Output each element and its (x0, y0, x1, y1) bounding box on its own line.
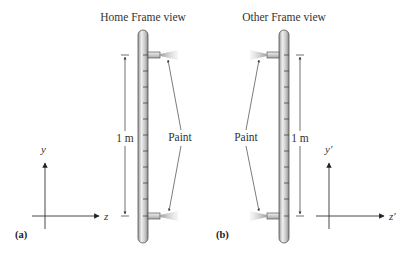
paint-nozzle-bottom-a (148, 211, 178, 221)
paint-label-a: Paint (168, 131, 192, 143)
panel-b: Other Frame view (216, 11, 396, 243)
panel-label-b: (b) (216, 229, 229, 241)
panel-b-title: Other Frame view (242, 11, 326, 23)
paint-nozzle-bottom-b (250, 211, 279, 221)
paint-nozzle-top-a (148, 50, 178, 60)
axis-label-y-prime: y′ (324, 143, 333, 155)
meter-stick-a (138, 30, 148, 243)
meter-stick-b (279, 30, 289, 243)
axis-label-y: y (40, 143, 46, 155)
panel-a-title: Home Frame view (100, 11, 186, 23)
relativity-diagram: Home Frame view (0, 0, 416, 259)
axes-a (32, 163, 99, 229)
paint-nozzle-top-b (250, 50, 279, 60)
panel-a: Home Frame view (15, 11, 193, 243)
axes-b (316, 163, 384, 229)
axis-label-z-prime: z′ (388, 210, 396, 222)
axis-label-z: z (103, 210, 109, 222)
panel-label-a: (a) (15, 229, 28, 241)
length-label-a: 1 m (116, 132, 134, 144)
paint-label-b: Paint (234, 131, 258, 143)
length-label-b: 1 m (291, 132, 309, 144)
